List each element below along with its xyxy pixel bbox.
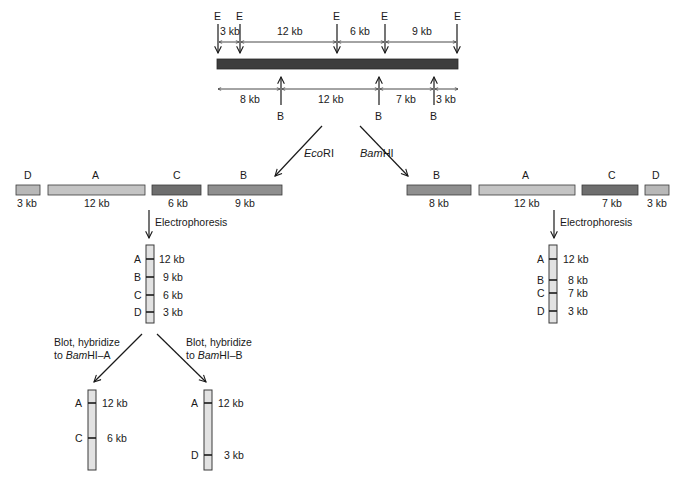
ecori-site-label: E (381, 10, 388, 22)
fragment-bar-a (48, 185, 145, 195)
band-size: 6 kb (163, 289, 183, 301)
blot-a-label-line1: Blot, hybridize (54, 336, 120, 348)
fragment-size: 12 kb (84, 197, 110, 209)
blot-b-label-line1: Blot, hybridize (186, 336, 252, 348)
band-name: D (134, 306, 142, 318)
ecori-site-label: E (333, 10, 340, 22)
fragment-bar-c (582, 185, 638, 195)
fragment-name: B (240, 169, 247, 181)
bamhi-segment-label: 3 kb (436, 93, 456, 105)
band-name: B (537, 274, 544, 286)
fragment-size: 3 kb (647, 197, 667, 209)
band-size: 3 kb (568, 305, 588, 317)
band-size: 12 kb (159, 253, 185, 265)
restriction-mapping-diagram: E E E E E 3 kb 12 kb 6 kb 9 kb (0, 0, 685, 482)
bamhi-digest-label: BamHI (360, 147, 394, 159)
fragment-bar-b (407, 185, 471, 195)
bamhi-segment-label: 7 kb (396, 93, 416, 105)
band-name: C (537, 287, 545, 299)
fragment-name: A (92, 169, 99, 181)
band-name: B (134, 271, 141, 283)
band-name: A (75, 397, 82, 409)
gel-lane (88, 390, 96, 470)
ecori-fragments: D 3 kb A 12 kb C 6 kb B 9 kb (16, 169, 282, 209)
ecori-sites: E E E E E 3 kb 12 kb 6 kb 9 kb (214, 10, 461, 53)
band-size: 8 kb (568, 274, 588, 286)
ecori-segment-label: 12 kb (277, 25, 303, 37)
dna-molecule (217, 59, 458, 69)
fragment-bar-d (16, 185, 40, 195)
bamhi-segment-label: 12 kb (318, 93, 344, 105)
band-name: D (191, 449, 199, 461)
band-name: A (191, 397, 198, 409)
fragment-size: 3 kb (17, 197, 37, 209)
band-size: 6 kb (107, 432, 127, 444)
fragment-size: 12 kb (514, 197, 540, 209)
fragment-name: D (24, 169, 32, 181)
fragment-name: C (173, 169, 181, 181)
band-size: 12 kb (218, 397, 244, 409)
band-name: A (537, 253, 544, 265)
band-size: 3 kb (224, 449, 244, 461)
fragment-size: 8 kb (429, 197, 449, 209)
band-name: C (134, 289, 142, 301)
fragment-bar-d (645, 185, 669, 195)
band-size: 3 kb (163, 306, 183, 318)
restriction-map: E E E E E 3 kb 12 kb 6 kb 9 kb (214, 10, 461, 122)
fragment-bar-c (152, 185, 201, 195)
bamhi-site-label: B (277, 110, 284, 122)
bamhi-site-label: B (430, 110, 437, 122)
band-size: 7 kb (568, 287, 588, 299)
ecori-segment-label: 6 kb (350, 25, 370, 37)
fragment-size: 9 kb (235, 197, 255, 209)
band-name: C (75, 432, 83, 444)
ecori-gel-lane: A B C D 12 kb 9 kb 6 kb 3 kb (134, 245, 185, 323)
fragment-size: 6 kb (168, 197, 188, 209)
ecori-site-label: E (454, 10, 461, 22)
fragment-name: C (608, 169, 616, 181)
blot-a-lane: A C 12 kb 6 kb (75, 390, 128, 470)
bamhi-fragments: B 8 kb A 12 kb C 7 kb D 3 kb (407, 169, 669, 209)
fragment-bar-b (208, 185, 282, 195)
ecori-segment-label: 9 kb (412, 25, 432, 37)
bamhi-segment-label: 8 kb (240, 93, 260, 105)
fragment-bar-a (479, 185, 575, 195)
gel-lane (204, 390, 212, 470)
electrophoresis-label: Electrophoresis (155, 216, 227, 228)
fragment-name: D (652, 169, 660, 181)
band-size: 9 kb (163, 271, 183, 283)
blot-b-lane: A D 12 kb 3 kb (191, 390, 244, 470)
bamhi-site-label: B (375, 110, 382, 122)
electrophoresis-label: Electrophoresis (560, 216, 632, 228)
fragment-name: A (522, 169, 529, 181)
bamhi-gel-lane: A B C D 12 kb 8 kb 7 kb 3 kb (537, 245, 589, 323)
ecori-site-label: E (236, 10, 243, 22)
fragment-name: B (433, 169, 440, 181)
ecori-digest-label: EcoRI (304, 147, 334, 159)
band-size: 12 kb (563, 253, 589, 265)
ecori-site-label: E (214, 10, 221, 22)
band-name: D (537, 305, 545, 317)
blot-a-label-line2: to BamHI–A (54, 349, 111, 361)
fragment-size: 7 kb (602, 197, 622, 209)
blot-b-label-line2: to BamHI–B (186, 349, 243, 361)
band-size: 12 kb (102, 397, 128, 409)
ecori-segment-label: 3 kb (220, 25, 240, 37)
bamhi-sites: 8 kb 12 kb 7 kb 3 kb B B B (218, 77, 458, 122)
band-name: A (134, 253, 141, 265)
